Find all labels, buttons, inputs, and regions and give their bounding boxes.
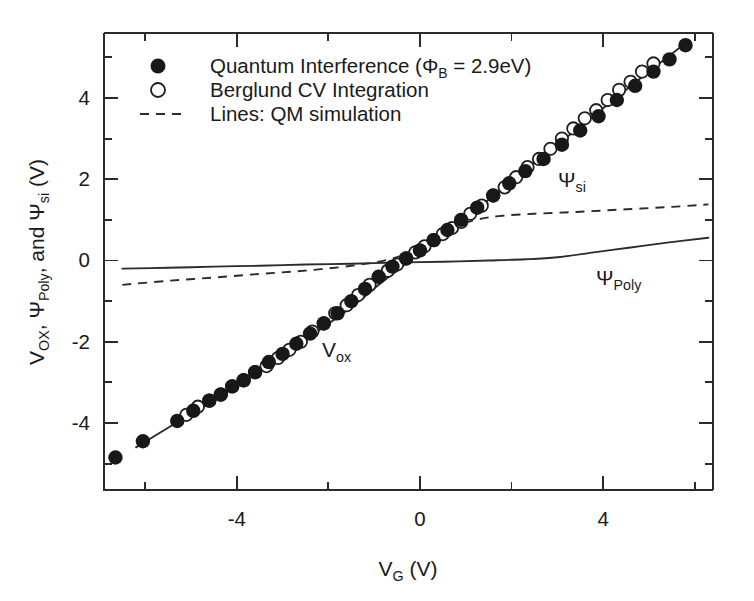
data-point-filled [518, 164, 532, 178]
y-tick-label: 4 [79, 86, 90, 109]
data-point-filled [344, 294, 358, 308]
data-point-filled [248, 365, 262, 379]
x-tick-label: -4 [228, 507, 246, 530]
data-point-filled [108, 450, 122, 464]
data-point-filled [610, 93, 624, 107]
data-point-filled [186, 404, 200, 418]
data-point-filled [170, 414, 184, 428]
data-point-filled [440, 223, 454, 237]
data-point-filled [136, 434, 150, 448]
y-tick-label: -4 [72, 411, 90, 434]
x-axis-title: VG (V) [379, 557, 438, 584]
data-point-filled [289, 337, 303, 351]
legend-label-berglund: Berglund CV Integration [210, 78, 429, 101]
data-point-filled [413, 243, 427, 257]
legend-marker-filled-circle [151, 59, 166, 74]
data-point-filled [262, 355, 276, 369]
data-point-filled [470, 200, 484, 214]
data-point-filled [536, 152, 550, 166]
data-point-filled [426, 233, 440, 247]
y-tick-label: 2 [79, 167, 90, 190]
data-point-filled [573, 123, 587, 137]
x-tick-label: 0 [414, 507, 425, 530]
data-point-filled [628, 79, 642, 93]
legend-marker-open-circle [151, 83, 165, 97]
data-point-filled [662, 52, 676, 66]
data-point-filled [330, 306, 344, 320]
y-tick-label: 0 [79, 248, 90, 271]
data-point-filled [275, 347, 289, 361]
chart-figure: -404 420-2-4 Vox Ψsi ΨPoly Quantum Inter… [0, 0, 754, 601]
data-point-filled [555, 138, 569, 152]
data-point-filled [385, 259, 399, 273]
data-point-filled [591, 109, 605, 123]
data-point-filled [502, 176, 516, 190]
x-tick-label: 4 [597, 507, 608, 530]
data-point-filled [454, 213, 468, 227]
data-point-filled [486, 188, 500, 202]
data-point-filled [303, 326, 317, 340]
y-tick-label: -2 [72, 330, 90, 353]
data-point-filled [646, 64, 660, 78]
data-point-filled [358, 282, 372, 296]
data-point-filled [372, 270, 386, 284]
scatter-plot: -404 420-2-4 Vox Ψsi ΨPoly Quantum Inter… [0, 0, 754, 601]
data-point-filled [399, 251, 413, 265]
legend-label-qm-simulation: Lines: QM simulation [210, 102, 401, 125]
data-point-open [579, 112, 591, 124]
data-point-filled [678, 38, 692, 52]
data-point-filled [317, 316, 331, 330]
legend-label-quantum-interference: Quantum Interference (ΦB = 2.9eV) [210, 54, 531, 81]
